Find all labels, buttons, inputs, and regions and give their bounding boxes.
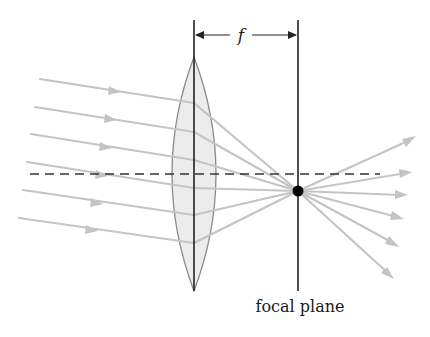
incoming-rays <box>19 79 194 243</box>
focal-point <box>293 186 304 197</box>
lens-focal-diagram: f focal plane <box>0 0 430 337</box>
dim-arrow-left-icon <box>195 31 204 39</box>
focal-length-label: f <box>236 25 247 45</box>
outgoing-rays <box>298 140 410 274</box>
focal-length-dimension: f <box>195 25 297 45</box>
focal-plane-label: focal plane <box>256 297 345 316</box>
outgoing-arrowheads <box>381 136 416 279</box>
incoming-arrowheads <box>85 86 121 234</box>
dim-arrow-right-icon <box>288 31 297 39</box>
